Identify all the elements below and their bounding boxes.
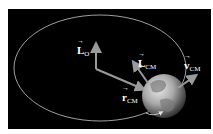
label-subscript: CM	[190, 65, 201, 73]
label-l-cm: LCM	[138, 58, 156, 71]
orbit-diagram	[0, 0, 213, 134]
label-subscript: O	[84, 50, 89, 58]
label-symbol: v	[184, 60, 190, 71]
label-subscript: CM	[127, 97, 138, 105]
label-r-cm: rCM	[122, 92, 138, 105]
position-vector-arrow	[96, 69, 143, 89]
label-v-cm: vCM	[184, 60, 200, 73]
label-subscript: CM	[145, 63, 156, 71]
label-l-origin: LO	[77, 45, 89, 58]
label-symbol: L	[138, 58, 145, 69]
earth-globe	[142, 74, 186, 118]
label-symbol: L	[77, 45, 84, 56]
label-symbol: r	[122, 92, 127, 103]
